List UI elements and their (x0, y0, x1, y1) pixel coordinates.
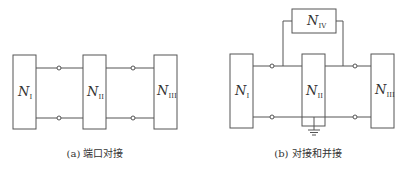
terminal-icon (353, 64, 357, 68)
caption-a: (a) 端口对接 (67, 147, 124, 159)
caption-b: (b) 对接和并接 (274, 147, 341, 159)
terminal-icon (270, 64, 274, 68)
terminal-icon (353, 115, 357, 119)
two-port-interconnection-diagrams: NI NII NIII (a) 端口对接 (0, 0, 407, 173)
wire-b-n4-left-lead (283, 21, 292, 66)
diagram-b-cascade-and-parallel: NI NII NIII NIV (b) 对接和并接 (230, 9, 395, 159)
terminal-icon (270, 115, 274, 119)
diagram-a-port-cascade: NI NII NIII (a) 端口对接 (13, 55, 177, 159)
terminal-icon (131, 116, 135, 120)
terminal-icon (57, 66, 61, 70)
terminal-icon (131, 66, 135, 70)
wire-b-n4-right-lead (336, 21, 343, 66)
network-b-n2-label: NII (305, 83, 323, 100)
terminal-icon (57, 116, 61, 120)
